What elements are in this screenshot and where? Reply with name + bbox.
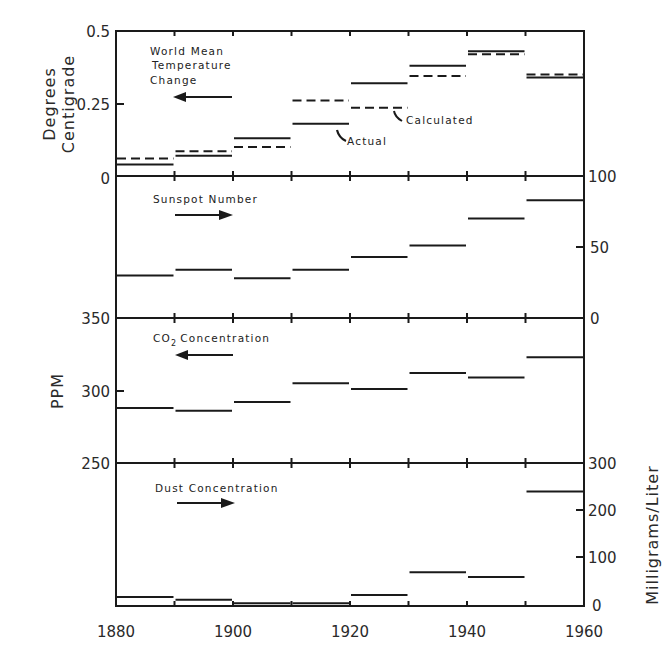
actual-label: Actual bbox=[347, 135, 387, 147]
sunspot-title: Sunspot Number bbox=[153, 193, 258, 205]
temp-tick-label-0.25: 0.25 bbox=[77, 96, 110, 114]
temp-tick-label-0.5: 0.5 bbox=[86, 23, 110, 41]
co2-tick-label-300: 300 bbox=[81, 383, 110, 401]
co2-title: CO2Concentration bbox=[153, 332, 270, 348]
dust-tick-label-300: 300 bbox=[588, 455, 617, 473]
actual-pointer-icon bbox=[337, 130, 346, 141]
sunspot-tick-label-100: 100 bbox=[588, 168, 617, 186]
dust-ylabel: Milligrams/Liter bbox=[643, 465, 662, 605]
right-arrow-icon bbox=[175, 210, 233, 220]
x-tick-label-1880: 1880 bbox=[97, 623, 135, 641]
dust-tick-label-100: 100 bbox=[588, 549, 617, 567]
calculated-pointer-icon bbox=[394, 111, 402, 121]
co2-tick-label-350: 350 bbox=[81, 310, 110, 328]
temp-title-line2: Temperature bbox=[151, 59, 232, 71]
temp-ylabel-line2: Centigrade bbox=[59, 55, 78, 153]
calculated-label: Calculated bbox=[406, 114, 474, 126]
climate-chart: 0.5 0.25 0 350 300 250 100 50 0 300 200 … bbox=[0, 0, 666, 663]
x-tick-label-1900: 1900 bbox=[214, 623, 252, 641]
dust-tick-label-0: 0 bbox=[592, 597, 602, 615]
x-tick-label-1940: 1940 bbox=[448, 623, 486, 641]
co2-tick-label-250: 250 bbox=[81, 455, 110, 473]
sunspot-tick-label-0: 0 bbox=[590, 310, 600, 328]
co2-ylabel: PPM bbox=[48, 373, 67, 409]
co2-title-prefix: CO bbox=[153, 332, 171, 344]
co2-title-sub: 2 bbox=[171, 339, 177, 348]
sunspot-tick-label-50: 50 bbox=[590, 239, 609, 257]
x-tick-label-1920: 1920 bbox=[331, 623, 369, 641]
temp-ylabel-line1: Degrees bbox=[40, 67, 59, 141]
temp-tick-label-0: 0 bbox=[100, 170, 110, 188]
co2-title-suffix: Concentration bbox=[180, 332, 270, 344]
dust-tick-label-200: 200 bbox=[588, 502, 617, 520]
x-tick-label-1960: 1960 bbox=[565, 623, 603, 641]
right-arrow-icon bbox=[177, 498, 235, 508]
left-arrow-icon bbox=[175, 350, 233, 360]
left-arrow-icon bbox=[173, 92, 232, 102]
temp-title-line1: World Mean bbox=[150, 45, 224, 57]
temp-title-line3: Change bbox=[150, 74, 197, 86]
dust-title: Dust Concentration bbox=[155, 482, 279, 494]
